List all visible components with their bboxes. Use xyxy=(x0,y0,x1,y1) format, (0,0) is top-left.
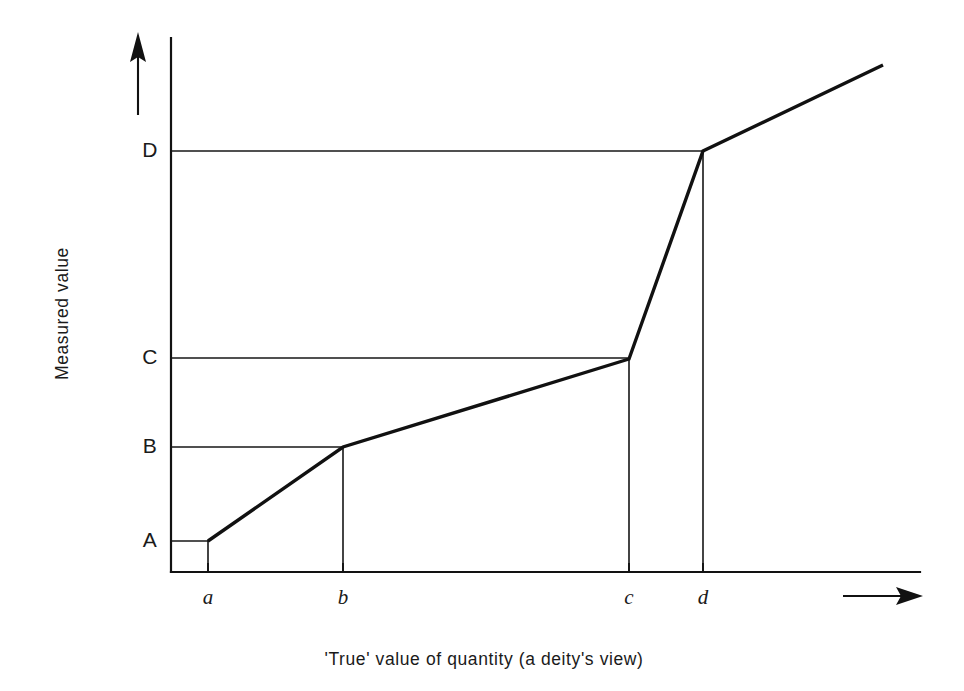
x-tick-labels: a b c d xyxy=(203,585,709,609)
x-tick-label-b: b xyxy=(338,585,349,609)
y-tick-labels: A B C D xyxy=(142,138,158,551)
vertical-drop-lines xyxy=(208,151,703,572)
y-tick-label-D: D xyxy=(142,138,158,161)
horizontal-guide-lines xyxy=(171,151,704,541)
y-axis-direction-arrow-icon xyxy=(130,32,146,115)
axes-group xyxy=(171,38,920,572)
y-tick-label-A: A xyxy=(143,528,158,551)
x-tick-label-a: a xyxy=(203,585,214,609)
x-axis-direction-arrow-icon xyxy=(843,587,923,605)
x-tick-label-c: c xyxy=(624,585,634,609)
x-tick-label-d: d xyxy=(698,585,709,609)
x-axis-tick-marks xyxy=(208,563,703,572)
data-series-measurement-response xyxy=(208,65,883,541)
figure-root: A B C D a b c d Measured value 'True' va… xyxy=(0,0,964,691)
y-tick-label-C: C xyxy=(142,345,158,368)
y-tick-label-B: B xyxy=(143,434,158,457)
x-axis-title: 'True' value of quantity (a deity's view… xyxy=(325,649,644,669)
data-line-polyline xyxy=(208,65,883,541)
calibration-curve-chart: A B C D a b c d Measured value 'True' va… xyxy=(0,0,964,691)
y-axis-title: Measured value xyxy=(52,247,72,380)
